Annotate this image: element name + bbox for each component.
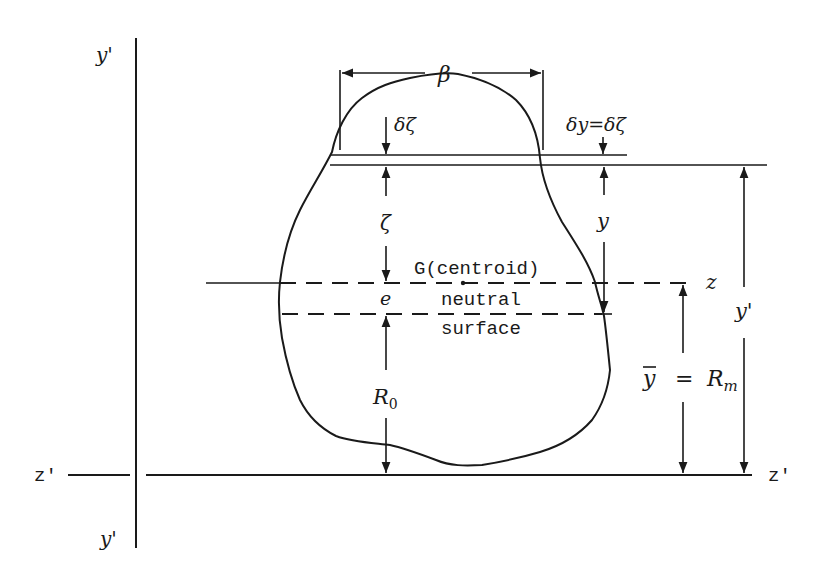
width-dimension: β bbox=[340, 62, 543, 150]
equals-sign: = bbox=[675, 366, 693, 391]
neutral-surface: e neutral surface bbox=[282, 287, 602, 340]
r0-dimension: R0 bbox=[372, 316, 398, 473]
y-prime-top-label: y' bbox=[95, 43, 113, 67]
eccentricity-label: e bbox=[380, 287, 391, 309]
y-prime-bottom-label: y' bbox=[99, 527, 117, 551]
zeta-label: ζ bbox=[380, 211, 392, 235]
z-prime-axis: z' z' bbox=[34, 465, 791, 487]
y-prime-dimension: y' bbox=[734, 167, 753, 473]
zeta-dimension: ζ bbox=[380, 167, 392, 281]
surface-label: surface bbox=[441, 318, 521, 340]
elemental-strip: δζ δy=δζ bbox=[330, 113, 767, 165]
z-prime-right-label: z' bbox=[768, 465, 791, 487]
delta-y-equals-delta-zeta-label: δy=δζ bbox=[566, 113, 628, 135]
rm-dimension: y = Rm bbox=[642, 285, 738, 473]
y-label: y bbox=[596, 209, 610, 233]
curved-beam-diagram: y' y' z' z' β δζ δy=δζ ζ y bbox=[0, 0, 816, 583]
centroid-point bbox=[461, 281, 465, 285]
beta-label: β bbox=[437, 62, 451, 87]
delta-zeta-label: δζ bbox=[394, 113, 417, 135]
y-prime-dim-label: y' bbox=[734, 299, 753, 323]
z-axis-label: z bbox=[705, 270, 717, 294]
centroid-label: G(centroid) bbox=[414, 258, 539, 280]
rm-label: Rm bbox=[706, 366, 738, 395]
ybar-label: y bbox=[642, 366, 656, 391]
r0-label: R0 bbox=[372, 385, 398, 412]
z-prime-left-label: z' bbox=[34, 465, 57, 487]
neutral-label: neutral bbox=[441, 289, 521, 311]
